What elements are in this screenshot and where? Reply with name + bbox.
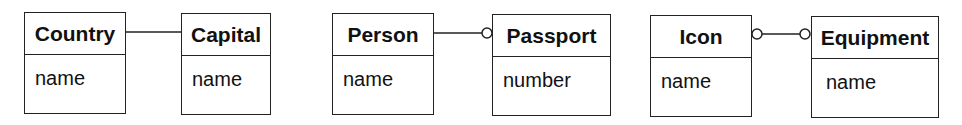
class-name: Equipment [812,17,938,59]
class-name: Person [333,14,433,56]
class-person: Person name [332,13,434,115]
zero-or-one-circle-icon [752,29,762,39]
class-attribute: name [651,58,751,93]
class-passport: Passport number [492,14,611,116]
class-name: Country [25,13,125,55]
class-equipment: Equipment name [811,16,939,118]
class-attribute: name [812,59,938,94]
class-name: Capital [182,14,270,56]
class-country: Country name [24,12,126,114]
zero-or-one-circle-icon [482,28,492,38]
zero-or-one-circle-icon [800,29,810,39]
class-attribute: name [182,56,270,91]
class-icon: Icon name [650,15,752,117]
class-attribute: number [493,57,610,92]
class-name: Passport [493,15,610,57]
class-name: Icon [651,16,751,58]
class-attribute: name [25,55,125,90]
class-attribute: name [333,56,433,91]
class-capital: Capital name [181,13,271,115]
